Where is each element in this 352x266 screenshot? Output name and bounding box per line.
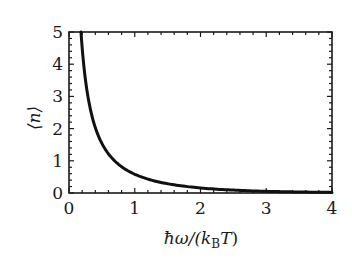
minor-ticks: [69, 32, 332, 193]
x-tick-label: 2: [195, 198, 206, 218]
y-tick-label: 3: [52, 86, 63, 106]
x-tick-label: 0: [64, 198, 75, 218]
y-tick-label: 5: [52, 22, 63, 42]
y-tick-label: 2: [52, 119, 63, 139]
chart: 01234 012345 ħω/(kBT) ⟨n⟩: [0, 0, 352, 266]
x-tick-label: 3: [261, 198, 272, 218]
x-tick-labels: 01234: [64, 198, 338, 218]
y-tick-labels: 012345: [52, 22, 63, 203]
y-tick-label: 0: [52, 183, 63, 203]
x-tick-label: 4: [327, 198, 338, 218]
y-axis-label: ⟨n⟩: [24, 106, 44, 130]
x-axis-label: ħω/(kBT): [164, 228, 238, 251]
major-ticks: [69, 32, 332, 193]
plot-frame: [69, 32, 332, 193]
x-tick-label: 1: [129, 198, 140, 218]
occupation-curve: [81, 32, 332, 192]
y-tick-label: 1: [52, 151, 63, 171]
y-tick-label: 4: [52, 54, 63, 74]
